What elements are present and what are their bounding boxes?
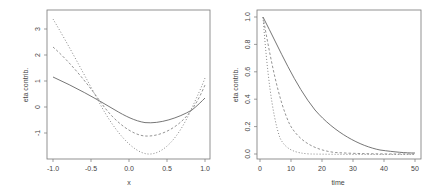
left-solid-curve [53,77,205,123]
left-ytick: 1 [34,79,41,83]
right-dotted-curve [263,17,415,155]
left-ytick: -1 [34,130,41,136]
left-y-tick-labels: 3 2 1 0 -1 [34,27,41,136]
right-x-tick-labels: 0 10 20 30 40 50 [258,165,419,172]
left-dashed-curve [53,47,205,136]
left-y-axis [44,29,47,133]
left-ytick: 0 [34,105,41,109]
left-xtick: 0.5 [162,165,172,172]
right-xtick: 10 [287,165,295,172]
right-xtick: 30 [349,165,357,172]
left-x-axis [53,159,205,162]
left-plot: 3 2 1 0 -1 eta contrib. -1.0 -0.5 0.0 0.… [22,10,210,186]
right-ytick: 0.6 [244,67,251,77]
left-ytick: 3 [34,27,41,31]
right-ytick: 1.0 [244,12,251,22]
left-dotted-curve [53,19,205,154]
right-plot-frame [257,10,421,159]
left-x-tick-labels: -1.0 -0.5 0.0 0.5 1.0 [47,165,210,172]
right-y-tick-labels: 0.0 0.2 0.4 0.6 0.8 1.0 [244,12,251,159]
left-xtick: 0.0 [124,165,134,172]
right-solid-curve [263,17,415,153]
right-ytick: 0.4 [244,94,251,104]
right-plot: 0.0 0.2 0.4 0.6 0.8 1.0 eta contrib. 0 1… [232,10,421,186]
left-ytick: 2 [34,53,41,57]
figure: 3 2 1 0 -1 eta contrib. -1.0 -0.5 0.0 0.… [0,0,440,194]
right-x-axis [260,159,415,162]
right-y-axis-label: eta contrib. [232,68,239,103]
right-y-axis [254,17,257,154]
right-ytick: 0.0 [244,149,251,159]
right-xtick: 40 [380,165,388,172]
right-x-axis-label: time [331,179,344,186]
right-xtick: 20 [318,165,326,172]
right-ytick: 0.2 [244,122,251,132]
right-xtick: 50 [411,165,419,172]
left-x-axis-label: x [127,179,131,186]
right-xtick: 0 [258,165,262,172]
left-xtick: -0.5 [85,165,97,172]
left-xtick: -1.0 [47,165,59,172]
left-xtick: 1.0 [200,165,210,172]
left-y-axis-label: eta contrib. [22,68,29,103]
right-ytick: 0.8 [244,39,251,49]
right-dashed-curve [263,17,415,154]
left-plot-frame [47,10,210,159]
